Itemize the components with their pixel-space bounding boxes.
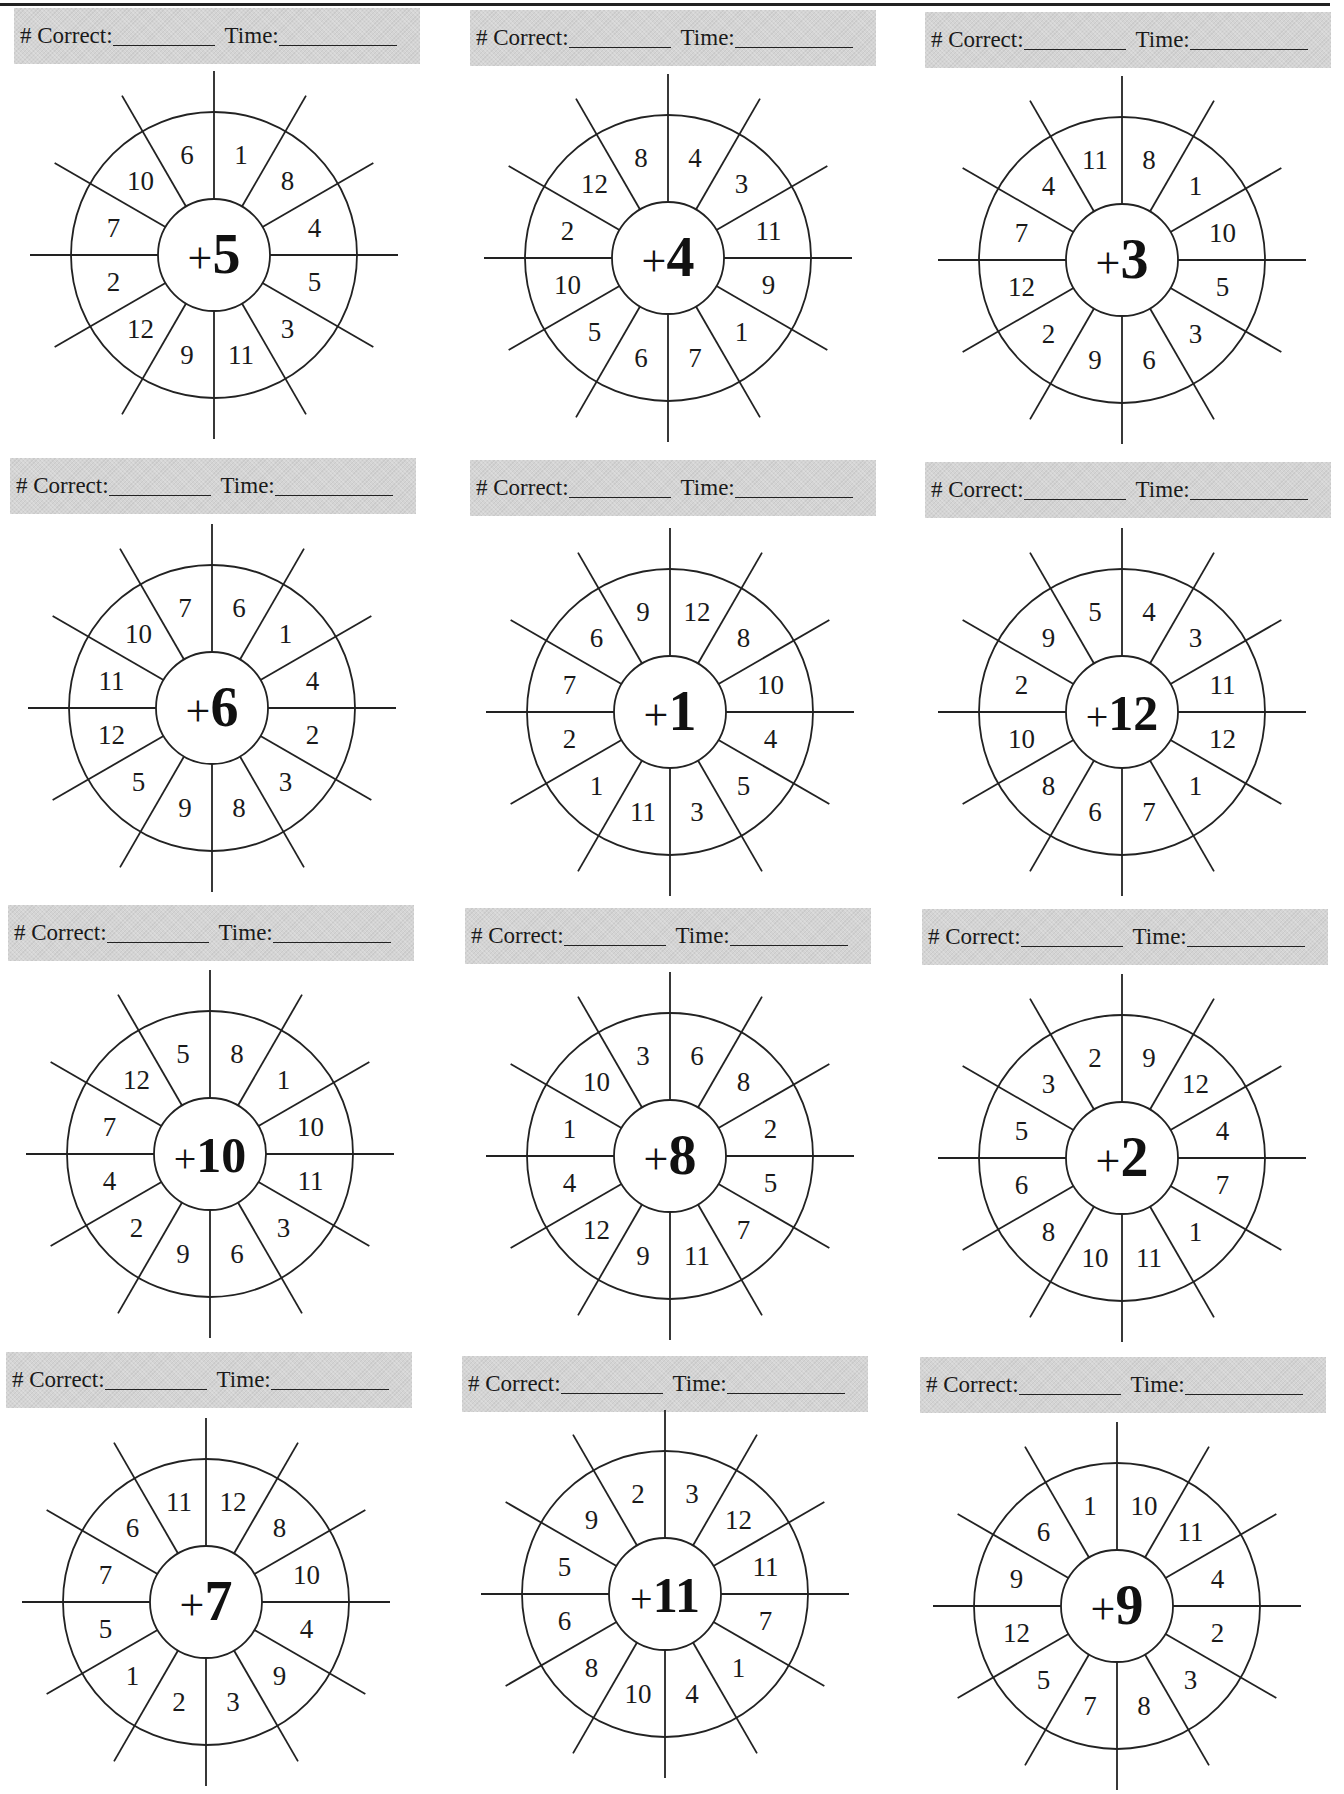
wheel-spoke xyxy=(578,553,642,664)
wheel-spoke xyxy=(240,756,304,867)
score-header: # Correct:Time: xyxy=(922,909,1328,965)
wheel-number: 7 xyxy=(759,1606,773,1636)
time-input-blank[interactable] xyxy=(279,27,397,46)
time-label: Time: xyxy=(217,1367,271,1393)
correct-input-blank[interactable] xyxy=(569,479,671,498)
wheel-number: 1 xyxy=(735,317,749,347)
wheel-number: 6 xyxy=(590,623,604,653)
correct-label: # Correct: xyxy=(928,924,1021,950)
time-input-blank[interactable] xyxy=(275,477,393,496)
wheel-spoke xyxy=(698,760,762,871)
wheel-spoke xyxy=(1150,308,1214,419)
wheel-number: 10 xyxy=(583,1067,610,1097)
correct-input-blank[interactable] xyxy=(113,27,215,46)
time-input-blank[interactable] xyxy=(1185,1376,1303,1395)
wheel-number: 3 xyxy=(226,1687,240,1717)
wheel-number: 8 xyxy=(585,1653,599,1683)
correct-input-blank[interactable] xyxy=(1024,31,1126,50)
addition-wheel: 184531191227106+5 xyxy=(25,66,403,444)
score-header: # Correct:Time: xyxy=(470,10,876,66)
time-input-blank[interactable] xyxy=(1190,31,1308,50)
wheel-number: 7 xyxy=(563,670,577,700)
wheel-spoke xyxy=(1150,101,1214,212)
correct-input-blank[interactable] xyxy=(1019,1376,1121,1395)
wheel-number: 12 xyxy=(1008,272,1035,302)
addend-number: 7 xyxy=(204,1570,232,1632)
wheel-number: 2 xyxy=(631,1479,645,1509)
wheel-number: 4 xyxy=(688,143,702,173)
correct-label: # Correct: xyxy=(476,25,569,51)
wheel-number: 12 xyxy=(581,169,608,199)
time-input-blank[interactable] xyxy=(730,927,848,946)
score-header: # Correct:Time: xyxy=(462,1356,868,1412)
correct-label: # Correct: xyxy=(926,1372,1019,1398)
correct-label: # Correct: xyxy=(16,473,109,499)
wheel-number: 9 xyxy=(273,1661,287,1691)
time-label: Time: xyxy=(1136,477,1190,503)
wheel-number: 5 xyxy=(1216,272,1230,302)
wheel-number: 4 xyxy=(685,1679,699,1709)
wheel-spoke xyxy=(1025,1654,1089,1765)
time-label: Time: xyxy=(681,475,735,501)
wheel-number: 9 xyxy=(180,340,194,370)
wheel-number: 11 xyxy=(684,1241,710,1271)
wheel-number: 11 xyxy=(1082,145,1108,175)
correct-input-blank[interactable] xyxy=(1024,481,1126,500)
correct-label: # Correct: xyxy=(468,1371,561,1397)
wheel-number: 8 xyxy=(273,1513,287,1543)
wheel-number: 3 xyxy=(1189,623,1203,653)
wheel-number: 1 xyxy=(590,771,604,801)
center-addend-label: +12 xyxy=(1086,685,1159,741)
addend-number: 9 xyxy=(1115,1574,1143,1636)
wheel-number: 10 xyxy=(1008,724,1035,754)
wheel-spoke xyxy=(696,306,760,417)
plus-sign: + xyxy=(174,1136,197,1181)
wheel-number: 8 xyxy=(230,1039,244,1069)
time-input-blank[interactable] xyxy=(271,1371,389,1390)
correct-input-blank[interactable] xyxy=(105,1371,207,1390)
wheel-spoke xyxy=(573,1435,637,1546)
wheel-spoke xyxy=(696,99,760,210)
plus-sign: + xyxy=(1091,1585,1116,1634)
time-input-blank[interactable] xyxy=(1187,928,1305,947)
wheel-number: 7 xyxy=(1216,1170,1230,1200)
wheel-number: 9 xyxy=(178,793,192,823)
correct-input-blank[interactable] xyxy=(1021,928,1123,947)
time-input-blank[interactable] xyxy=(727,1375,845,1394)
correct-input-blank[interactable] xyxy=(564,927,666,946)
wheel-spoke xyxy=(234,1650,298,1761)
time-input-blank[interactable] xyxy=(735,479,853,498)
wheel-number: 4 xyxy=(1142,597,1156,627)
correct-input-blank[interactable] xyxy=(109,477,211,496)
wheel-number: 11 xyxy=(166,1487,192,1517)
time-input-blank[interactable] xyxy=(273,924,391,943)
score-header: # Correct:Time: xyxy=(925,462,1331,518)
correct-input-blank[interactable] xyxy=(561,1375,663,1394)
wheel-number: 6 xyxy=(126,1513,140,1543)
correct-input-blank[interactable] xyxy=(569,29,671,48)
wheel-number: 1 xyxy=(1189,1217,1203,1247)
wheel-number: 4 xyxy=(103,1166,117,1196)
wheel-number: 9 xyxy=(762,270,776,300)
wheel-number: 7 xyxy=(688,343,702,373)
wheel-number: 9 xyxy=(1010,1564,1024,1594)
wheel-number: 5 xyxy=(99,1614,113,1644)
wheel-number: 11 xyxy=(755,216,781,246)
time-label: Time: xyxy=(221,473,275,499)
wheel-spoke xyxy=(238,1202,302,1313)
wheel-number: 11 xyxy=(297,1166,323,1196)
wheel-number: 3 xyxy=(281,314,295,344)
wheel-number: 1 xyxy=(563,1114,577,1144)
score-header: # Correct:Time: xyxy=(925,12,1331,68)
wheel-spoke xyxy=(693,1642,757,1753)
wheel-spoke xyxy=(698,997,762,1108)
wheel-number: 1 xyxy=(1083,1491,1097,1521)
time-input-blank[interactable] xyxy=(735,29,853,48)
correct-input-blank[interactable] xyxy=(107,924,209,943)
time-input-blank[interactable] xyxy=(1190,481,1308,500)
wheel-number: 3 xyxy=(279,767,293,797)
plus-sign: + xyxy=(188,234,213,283)
wheel-number: 1 xyxy=(279,619,293,649)
addend-number: 1 xyxy=(668,680,696,742)
wheel-number: 6 xyxy=(690,1041,704,1071)
